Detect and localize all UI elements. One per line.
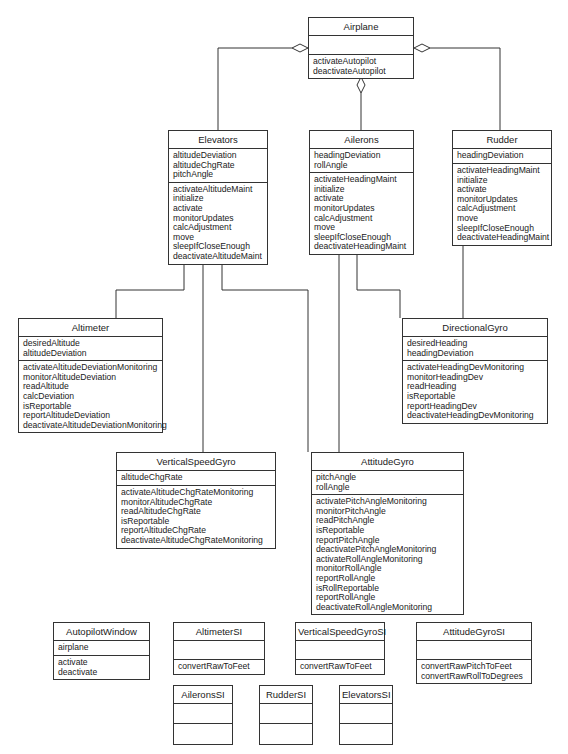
operations-compartment: activateAutopilot deactivateAutopilot (309, 55, 413, 78)
operations-compartment (174, 724, 232, 744)
class-elevators-si[interactable]: ElevatorsSI (339, 685, 393, 745)
class-name: Altimeter (19, 319, 162, 337)
class-autopilot-window[interactable]: AutopilotWindow airplane activate deacti… (53, 622, 150, 680)
attribute: headingDeviation (407, 349, 544, 359)
attribute: airplane (58, 643, 146, 653)
attribute: headingDeviation (457, 151, 548, 161)
aggregation-diamond-icon (414, 44, 430, 52)
class-rudder-si[interactable]: RudderSI (259, 685, 313, 745)
aggregation-diamond-icon (292, 44, 308, 52)
operations-compartment: activateHeadingMaint initialize activate… (310, 173, 413, 254)
operations-compartment: convertRawToFeet (174, 660, 264, 674)
class-name: AttitudeGyroSI (417, 623, 531, 641)
attributes-compartment: pitchAngle rollAngle (312, 471, 463, 495)
operation: convertRawToFeet (178, 662, 261, 672)
class-airplane[interactable]: Airplane activateAutopilot deactivateAut… (308, 17, 414, 79)
class-rudder[interactable]: Rudder headingDeviation activateHeadingM… (452, 130, 552, 246)
operations-compartment (260, 724, 312, 744)
operations-compartment: convertRawPitchToFeet convertRawRollToDe… (417, 660, 531, 683)
attribute: rollAngle (316, 483, 460, 493)
attribute: altitudeDeviation (23, 349, 159, 359)
operations-compartment: activateAltitudeDeviationMonitoring moni… (19, 361, 162, 432)
class-name: VerticalSpeedGyro (117, 453, 275, 471)
aggregation-diamond-icon (357, 77, 365, 93)
operation: deactivateAltitudeMaint (173, 252, 264, 262)
class-elevators[interactable]: Elevators altitudeDeviation altitudeChgR… (168, 130, 268, 265)
operations-compartment: activatePitchAngleMonitoring monitorPitc… (312, 495, 463, 614)
operations-compartment: convertRawToFeet (296, 660, 384, 674)
operation: deactivateAutopilot (313, 67, 410, 77)
operations-compartment: activateAltitudeMaint initialize activat… (169, 183, 267, 264)
operations-compartment: activate deactivate (54, 656, 149, 679)
class-name: AutopilotWindow (54, 623, 149, 641)
operation: deactivate (58, 668, 146, 678)
attributes-compartment: desiredHeading headingDeviation (403, 337, 547, 361)
attributes-compartment (260, 704, 312, 724)
attributes-compartment (174, 641, 264, 660)
class-name: AttitudeGyro (312, 453, 463, 471)
class-vertical-speed-gyro-si[interactable]: VerticalSpeedGyroSI convertRawToFeet (295, 622, 385, 675)
attributes-compartment: desiredAltitude altitudeDeviation (19, 337, 162, 361)
class-ailerons-si[interactable]: AileronsSI (173, 685, 233, 745)
operation: deactivateAltitudeDeviationMonitoring (23, 421, 159, 431)
class-ailerons[interactable]: Ailerons headingDeviation rollAngle acti… (309, 130, 414, 255)
class-altimeter-si[interactable]: AltimeterSI convertRawToFeet (173, 622, 265, 675)
attributes-compartment (174, 704, 232, 724)
operation: deactivateHeadingMaint (457, 233, 548, 243)
operation: convertRawRollToDegrees (421, 672, 528, 682)
class-name: DirectionalGyro (403, 319, 547, 337)
operation: deactivateAltitudeChgRateMonitoring (121, 536, 272, 546)
attribute: altitudeChgRate (121, 473, 272, 483)
class-attitude-gyro-si[interactable]: AttitudeGyroSI convertRawPitchToFeet con… (416, 622, 532, 684)
uml-class-diagram: Airplane activateAutopilot deactivateAut… (0, 0, 568, 754)
attributes-compartment: airplane (54, 641, 149, 656)
class-vertical-speed-gyro[interactable]: VerticalSpeedGyro altitudeChgRate activa… (116, 452, 276, 549)
attributes-compartment: headingDeviation rollAngle (310, 149, 413, 173)
aggregation-airplane-elevators (218, 48, 292, 130)
operation: deactivateRollAngleMonitoring (316, 603, 460, 613)
operation: deactivateHeadingMaint (314, 242, 410, 252)
class-name: Elevators (169, 131, 267, 149)
attributes-compartment (296, 641, 384, 660)
class-name: AltimeterSI (174, 623, 264, 641)
class-name: AileronsSI (174, 686, 232, 704)
association-elevators-altimeter (116, 262, 184, 318)
operations-compartment: activateAltitudeChgRateMonitoring monito… (117, 486, 275, 548)
class-name: VerticalSpeedGyroSI (296, 623, 384, 641)
operation: convertRawToFeet (300, 662, 381, 672)
class-name: Ailerons (310, 131, 413, 149)
class-attitude-gyro[interactable]: AttitudeGyro pitchAngle rollAngle activa… (311, 452, 464, 615)
attribute: pitchAngle (173, 170, 264, 180)
attributes-compartment: headingDeviation (453, 149, 551, 164)
operation: deactivateHeadingDevMonitoring (407, 411, 544, 421)
class-name: Rudder (453, 131, 551, 149)
class-name: Airplane (309, 18, 413, 36)
class-name: RudderSI (260, 686, 312, 704)
attributes-compartment: altitudeDeviation altitudeChgRate pitchA… (169, 149, 267, 183)
operations-compartment: activateHeadingDevMonitoring monitorHead… (403, 361, 547, 423)
class-name: ElevatorsSI (340, 686, 392, 704)
class-altimeter[interactable]: Altimeter desiredAltitude altitudeDeviat… (18, 318, 163, 433)
operations-compartment (340, 724, 392, 744)
operations-compartment: activateHeadingMaint initialize activate… (453, 164, 551, 245)
attributes-compartment: altitudeChgRate (117, 471, 275, 486)
attributes-compartment (309, 36, 413, 55)
class-directional-gyro[interactable]: DirectionalGyro desiredHeading headingDe… (402, 318, 548, 424)
attributes-compartment (340, 704, 392, 724)
association-elevators-attitudegyro (222, 262, 308, 452)
attributes-compartment (417, 641, 531, 660)
attribute: rollAngle (314, 161, 410, 171)
aggregation-airplane-rudder (430, 48, 500, 130)
association-ailerons-directionalgyro (357, 254, 400, 318)
